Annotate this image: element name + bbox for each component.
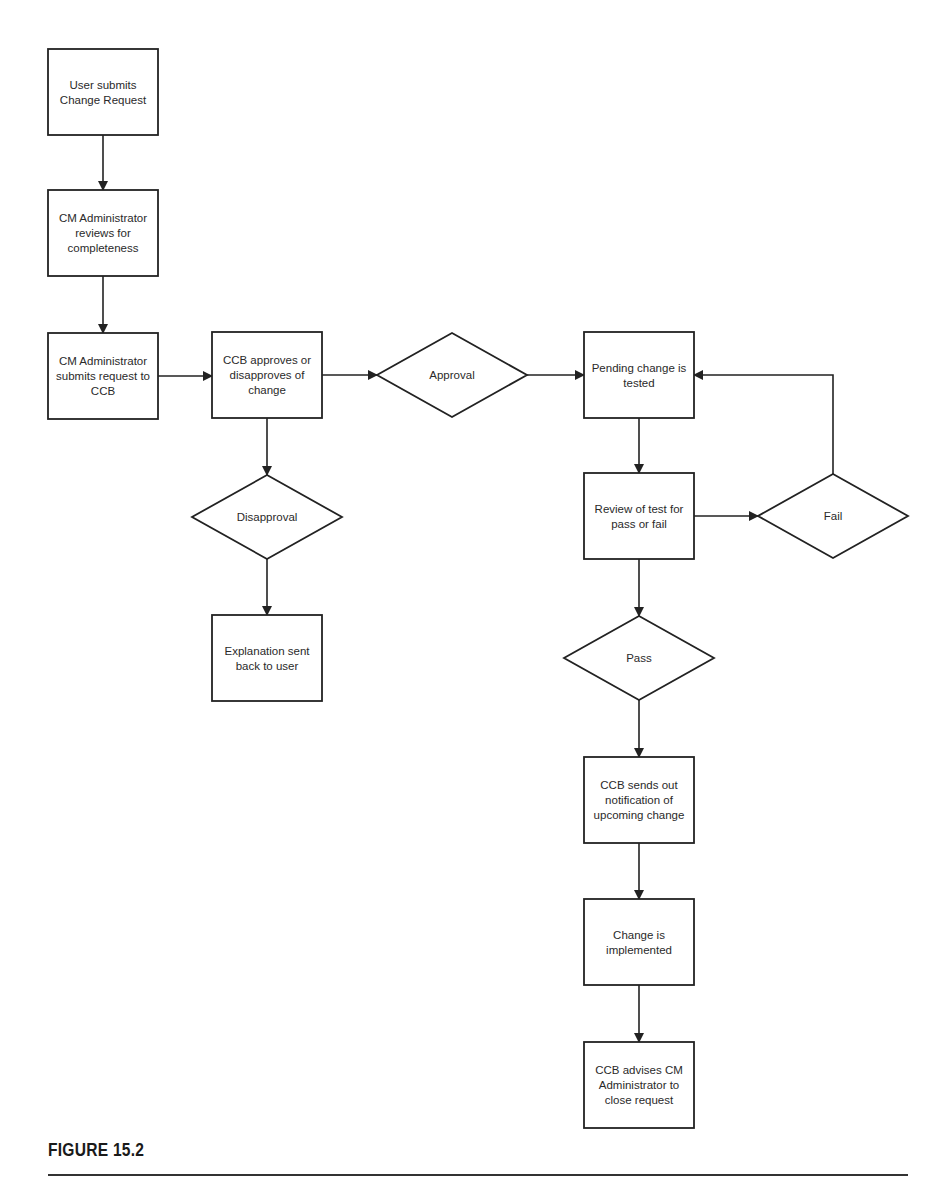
- nodes-layer: User submitsChange RequestCM Administrat…: [48, 49, 908, 1128]
- change-control-flowchart: User submitsChange RequestCM Administrat…: [0, 0, 952, 1184]
- node-label: implemented: [606, 944, 672, 956]
- node-label: Explanation sent: [224, 645, 310, 657]
- node-label: Fail: [824, 510, 843, 522]
- process-node-reviewtest: Review of test forpass or fail: [584, 473, 694, 559]
- node-label: notification of: [605, 794, 674, 806]
- process-node-test: Pending change istested: [584, 332, 694, 418]
- decision-node-disapproval: Disapproval: [192, 475, 342, 559]
- node-label: disapproves of: [230, 369, 306, 381]
- node-label: submits request to: [56, 370, 150, 382]
- node-label: change: [248, 384, 286, 396]
- node-label: CCB advises CM: [595, 1064, 683, 1076]
- node-label: back to user: [236, 660, 299, 672]
- caption-rule: [48, 1174, 908, 1176]
- node-label: Pass: [626, 652, 652, 664]
- node-label: completeness: [68, 242, 139, 254]
- process-node-forward: CM Administratorsubmits request toCCB: [48, 333, 158, 419]
- node-label: Administrator to: [599, 1079, 680, 1091]
- process-box: [584, 899, 694, 985]
- edges-layer: [103, 135, 833, 1042]
- node-label: tested: [623, 377, 654, 389]
- process-box: [584, 473, 694, 559]
- node-label: Pending change is: [592, 362, 687, 374]
- figure-caption: FIGURE 15.2: [48, 1139, 144, 1161]
- decision-node-fail: Fail: [758, 474, 908, 558]
- node-label: User submits: [69, 79, 136, 91]
- node-label: Approval: [429, 369, 474, 381]
- node-label: Change Request: [60, 94, 147, 106]
- node-label: pass or fail: [611, 518, 667, 530]
- process-node-review: CM Administratorreviews forcompleteness: [48, 190, 158, 276]
- process-node-implement: Change isimplemented: [584, 899, 694, 985]
- node-label: Disapproval: [237, 511, 298, 523]
- node-label: upcoming change: [594, 809, 685, 821]
- decision-node-approval: Approval: [377, 333, 527, 417]
- node-label: CCB approves or: [223, 354, 311, 366]
- node-label: Review of test for: [595, 503, 684, 515]
- arrow-fail-to-test: [694, 375, 833, 474]
- process-box: [584, 332, 694, 418]
- process-node-explain: Explanation sentback to user: [212, 615, 322, 701]
- process-node-submit: User submitsChange Request: [48, 49, 158, 135]
- node-label: CCB: [91, 385, 116, 397]
- node-label: close request: [605, 1094, 674, 1106]
- process-box: [212, 615, 322, 701]
- decision-node-pass: Pass: [564, 616, 714, 700]
- node-label: CCB sends out: [600, 779, 678, 791]
- process-node-ccb: CCB approves ordisapproves ofchange: [212, 332, 322, 418]
- node-label: Change is: [613, 929, 665, 941]
- node-label: CM Administrator: [59, 212, 147, 224]
- process-box: [48, 49, 158, 135]
- node-label: CM Administrator: [59, 355, 147, 367]
- process-node-close: CCB advises CMAdministrator toclose requ…: [584, 1042, 694, 1128]
- node-label: reviews for: [75, 227, 131, 239]
- process-node-notify: CCB sends outnotification ofupcoming cha…: [584, 757, 694, 843]
